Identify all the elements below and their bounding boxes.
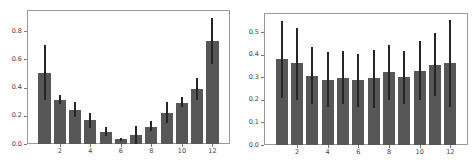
error-bar	[281, 21, 283, 98]
error-bar	[327, 52, 329, 106]
y-tick-mark	[261, 32, 264, 33]
error-bar	[135, 126, 137, 144]
y-tick-label: 0.2	[239, 96, 259, 103]
error-bar	[181, 97, 183, 107]
y-tick-label: 0.6	[2, 56, 22, 63]
y-tick-label: 0.1	[239, 119, 259, 126]
error-bar	[166, 102, 168, 123]
x-tick-label: 10	[412, 149, 428, 156]
y-tick-mark	[24, 144, 27, 145]
error-bar	[403, 51, 405, 104]
error-bar	[373, 50, 375, 108]
error-bar	[120, 138, 122, 142]
y-tick-mark	[261, 145, 264, 146]
x-tick-label: 12	[204, 148, 220, 155]
y-tick-label: 0.2	[2, 112, 22, 119]
y-tick-mark	[24, 31, 27, 32]
y-tick-label: 0.4	[2, 84, 22, 91]
error-bar	[74, 102, 76, 118]
error-bar	[449, 20, 451, 107]
error-bar	[150, 121, 152, 131]
x-tick-label: 8	[143, 148, 159, 155]
error-bar	[296, 28, 298, 100]
error-bar	[434, 33, 436, 96]
x-tick-label: 10	[174, 148, 190, 155]
x-tick-label: 6	[113, 148, 129, 155]
error-bar	[388, 45, 390, 100]
y-tick-label: 0.0	[2, 141, 22, 148]
error-bar	[357, 54, 359, 107]
error-bar	[342, 51, 344, 104]
y-tick-mark	[261, 100, 264, 101]
x-tick-label: 8	[381, 149, 397, 156]
y-tick-mark	[261, 55, 264, 56]
y-tick-mark	[24, 59, 27, 60]
error-bar	[211, 18, 213, 63]
bar	[176, 103, 188, 144]
x-tick-label: 2	[289, 149, 305, 156]
error-bar	[89, 113, 91, 129]
y-tick-label: 0.8	[2, 28, 22, 35]
error-bar	[311, 47, 313, 105]
bar	[54, 100, 66, 144]
error-bar	[105, 127, 107, 135]
error-bar	[419, 41, 421, 100]
y-tick-label: 0.0	[239, 142, 259, 149]
x-tick-label: 12	[442, 149, 458, 156]
y-tick-mark	[261, 122, 264, 123]
y-tick-label: 0.5	[239, 29, 259, 36]
y-tick-mark	[24, 88, 27, 89]
x-tick-label: 2	[52, 148, 68, 155]
error-bar	[196, 78, 198, 101]
x-tick-label: 4	[320, 149, 336, 156]
error-bar	[44, 45, 46, 100]
x-tick-label: 6	[350, 149, 366, 156]
x-tick-label: 4	[82, 148, 98, 155]
y-tick-mark	[24, 116, 27, 117]
y-tick-label: 0.4	[239, 51, 259, 58]
y-tick-mark	[261, 77, 264, 78]
y-tick-label: 0.3	[239, 74, 259, 81]
error-bar	[59, 95, 61, 105]
